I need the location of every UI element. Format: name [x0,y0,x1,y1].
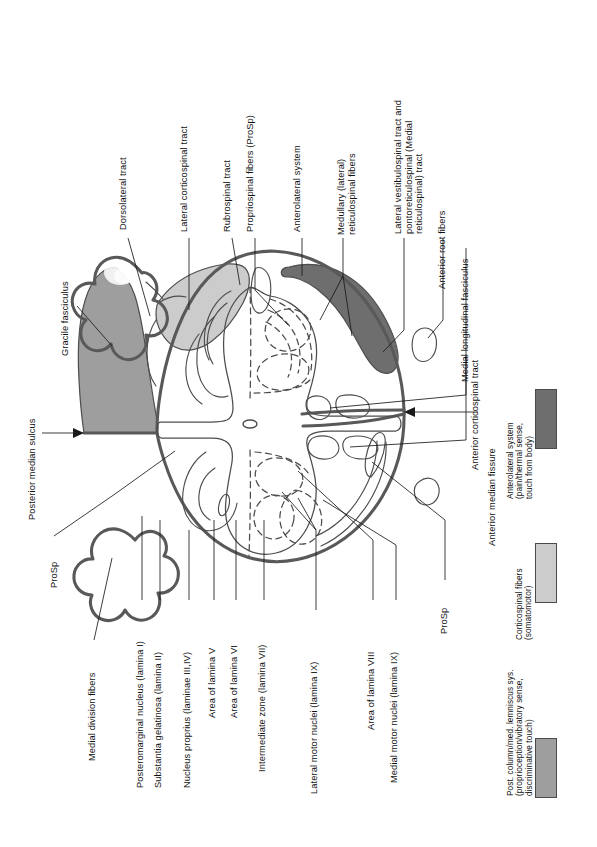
lamina-vi-region [255,351,312,394]
central-canal [243,420,257,428]
rubrospinal-tract-oval [251,268,271,314]
label-substantia-gelatinosa: Substantia gelatinosa (lamina II) [153,606,164,788]
label-dorsolateral-tract: Dorsolateral tract [118,110,129,230]
label-anterior-corticospinal-tract: Anterior corticospinal tract [470,330,481,470]
lamina-iii-iv-boundary [266,322,292,377]
figure-canvas: Dorsolateral tract Lateral corticospinal… [0,0,597,847]
label-intermediate-zone: Intermediate zone (lamina VII) [257,606,268,772]
label-lateral-vestibulospinal-tract: Lateral vestibulospinal tract and pontor… [393,96,425,234]
lamina-ii-boundary [268,310,300,373]
lamina-vii-boundary [254,380,310,393]
lamina-small-oval-left [216,493,231,517]
label-area-of-lamina-v: Area of lamina V [207,606,218,718]
anterior-median-fissure-line [302,410,404,414]
label-gracile-fasciculus: Gracile fasciculus [60,248,71,356]
label-area-of-lamina-vi: Area of lamina VI [229,606,240,718]
legend-swatch-anterolateral [535,389,557,449]
arrowhead-posterior-median-sulcus [73,428,84,438]
label-area-of-lamina-viii: Area of lamina VIII [366,608,377,730]
lamina-viii-region [252,453,307,500]
label-prosp-right: ProSp [439,586,450,634]
gracile-highlight-inner [114,268,134,284]
lamina-ix-medial-region [250,492,297,542]
label-prosp-left: ProSp [49,540,60,588]
leader-medial-division-fibers [94,558,112,640]
label-medial-division-fibers: Medial division fibers [87,646,98,761]
label-anterior-median-fissure: Anterior median fissure [487,420,498,546]
label-medial-motor-nuclei: Medial motor nuclei (lamina IX) [389,608,400,783]
lamina-i-boundary [270,299,312,370]
anterior-root-fiber-oval-1 [412,328,436,362]
leader-lateral-motor-nuclei-2 [282,492,316,530]
legend-swatch-posterior-column [535,738,557,798]
leader-prosp-left [54,451,175,536]
label-propriospinal-fibers: Propriospinal fibers (ProSp) [245,94,256,232]
lateral-corticospinal-fill [156,264,249,350]
arrowhead-anterior-median-fissure [404,407,415,417]
label-posteromarginal-nucleus: Posteromarginal nucleus (lamina I) [135,606,146,788]
lamina-vii-boundary-2 [255,452,310,476]
label-lateral-corticospinal-tract: Lateral corticospinal tract [179,92,190,232]
leader-area-lamina-viii [298,471,373,600]
label-anterior-root-fibers: Anterior root fibers [437,183,448,289]
lamina-detail-lower-left [183,452,237,531]
lamina-detail-lower-left-2 [199,468,215,520]
lamina-v-region [260,304,315,356]
label-medial-longitudinal-fasciculus: Medial longitudinal fasciculus [460,240,471,382]
legend-label-anterolateral: Anterolateral system (pain/thermal sense… [506,389,534,499]
label-lateral-motor-nuclei: Lateral motor nuclei (lamina IX) [309,616,320,794]
label-medullary-reticulospinal-fibers: Medullary (lateral) reticulospinal fiber… [336,130,357,235]
legend-label-posterior-column: Post. column/med. lemniscus sys. (propri… [506,604,534,796]
mlf-oval-2 [336,395,370,418]
label-nucleus-proprius: Nucleus proprius (laminae III,IV) [182,606,193,788]
anterolateral-tract-arc-2 [316,441,377,536]
anterior-corticospinal-oval-1 [308,436,339,459]
legend-swatch-corticospinal [535,543,557,603]
label-posterior-median-sulcus: Posterior median sulcus [27,380,38,520]
anterior-root-fiber-oval-2 [414,478,439,505]
label-rubrospinal-tract: Rubrospinal tract [222,132,233,232]
label-anterolateral-system: Anterolateral system [292,114,303,232]
